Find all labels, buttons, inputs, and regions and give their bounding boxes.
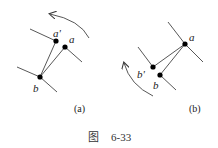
caption-number: 6-33 bbox=[111, 131, 132, 143]
point-a bbox=[62, 44, 67, 49]
label-b: b bbox=[153, 79, 159, 91]
panel-a: a' a b (a) bbox=[17, 14, 89, 115]
label-a: a bbox=[69, 33, 75, 45]
sublabel-a: (a) bbox=[74, 103, 85, 115]
label-b-prime: b' bbox=[137, 68, 146, 80]
figure-caption: 图 6-33 bbox=[88, 131, 132, 143]
panel-b: a b' b (b) bbox=[124, 22, 203, 115]
edge-line-a-lower bbox=[185, 44, 203, 62]
point-a-prime bbox=[53, 38, 58, 43]
link-b-a-prime bbox=[40, 41, 56, 77]
edge-line-b-left bbox=[17, 67, 40, 77]
point-b-prime bbox=[150, 64, 155, 69]
point-b bbox=[37, 74, 42, 79]
edge-line-b bbox=[160, 75, 176, 90]
edge-line-a-upper bbox=[168, 22, 185, 44]
edge-line-b-prime bbox=[138, 47, 153, 67]
point-b bbox=[157, 72, 162, 77]
sublabel-b: (b) bbox=[189, 103, 201, 115]
edge-line-b-right bbox=[40, 77, 57, 92]
point-a bbox=[182, 41, 187, 46]
link-b-a bbox=[40, 47, 65, 77]
edge-line-a bbox=[65, 47, 82, 62]
caption-prefix: 图 bbox=[88, 131, 99, 143]
label-a: a bbox=[189, 31, 195, 43]
figure-6-33: a' a b (a) a b' b (b) 图 6-33 bbox=[0, 0, 218, 148]
label-a-prime: a' bbox=[53, 27, 62, 39]
label-b: b bbox=[33, 82, 39, 94]
